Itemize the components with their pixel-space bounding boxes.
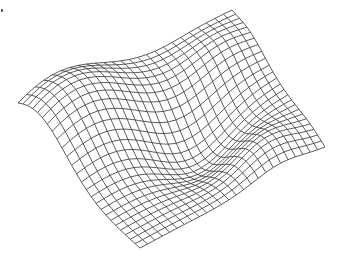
- wireframe-surface-plot: [0, 0, 344, 261]
- surface-mesh: [18, 10, 325, 248]
